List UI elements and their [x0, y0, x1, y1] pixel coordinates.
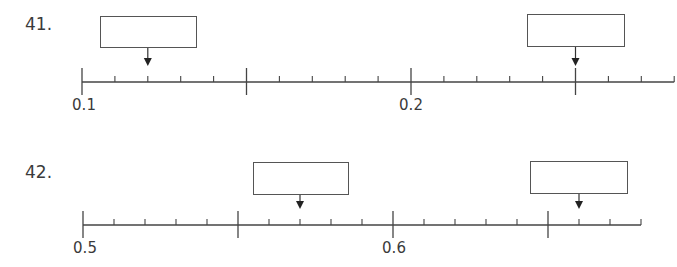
arrow-down-icon	[575, 201, 583, 209]
number-lines	[0, 0, 677, 267]
arrow-down-icon	[572, 58, 580, 66]
arrow-down-icon	[144, 58, 152, 66]
arrow-down-icon	[296, 201, 304, 209]
